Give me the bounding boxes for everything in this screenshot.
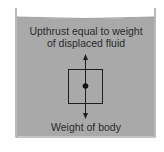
upthrust-label-line2: of displaced fluid bbox=[47, 37, 125, 49]
weight-label: Weight of body bbox=[51, 121, 122, 133]
upthrust-label-line1: Upthrust equal to weight bbox=[29, 25, 142, 37]
center-of-mass-dot bbox=[83, 83, 89, 89]
buoyancy-diagram: Upthrust equal to weight of displaced fl… bbox=[0, 0, 164, 152]
